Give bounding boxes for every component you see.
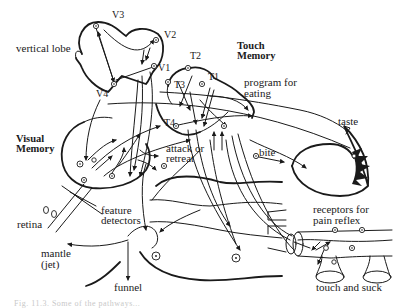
arm-suckers-shape bbox=[286, 230, 392, 283]
node-v1-label: V1 bbox=[158, 62, 170, 73]
node-t4-label: T4 bbox=[164, 117, 175, 128]
node-t2-label: T2 bbox=[190, 50, 201, 61]
visual-memory-title-line2: Memory bbox=[16, 143, 54, 154]
program-for-eating-label-line2: eating bbox=[244, 88, 271, 99]
body-outline bbox=[86, 177, 286, 287]
attack-or-retreat-label-line2: retreat bbox=[166, 153, 194, 164]
touch-memory-title-line2: Memory bbox=[237, 50, 275, 61]
funnel-label: funnel bbox=[114, 282, 142, 293]
node-t1-label: T1 bbox=[208, 71, 219, 82]
vertical-lobe-shape bbox=[75, 22, 163, 92]
retina-label: retina bbox=[17, 219, 42, 230]
vertical-lobe-label: vertical lobe bbox=[16, 43, 71, 54]
node-v4-label: V4 bbox=[96, 88, 108, 99]
node-t3-label: T3 bbox=[174, 79, 185, 90]
beak-shape bbox=[292, 126, 370, 196]
node-v3-label: V3 bbox=[112, 9, 124, 20]
mantle-jet-label-line2: (jet) bbox=[41, 259, 59, 270]
node-v2-label: V2 bbox=[164, 29, 176, 40]
figure-caption: Fig. 11.3. Some of the pathways... bbox=[14, 299, 140, 308]
receptors-pain-reflex-label-line2: pain reflex bbox=[313, 215, 360, 226]
retina-pathway bbox=[44, 184, 103, 232]
feature-detectors-label-line2: detectors bbox=[101, 215, 141, 226]
bite-label: bite bbox=[259, 147, 276, 158]
neural-pathways bbox=[86, 28, 350, 264]
visual-memory-shape bbox=[62, 117, 150, 188]
touch-and-suck-label: touch and suck bbox=[316, 282, 382, 293]
taste-label: taste bbox=[338, 116, 358, 127]
